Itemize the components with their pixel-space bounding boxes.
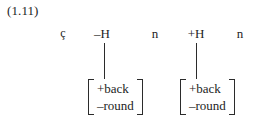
feature-list-right: +back –round xyxy=(186,79,229,115)
segment-tier: ç –H n +H n xyxy=(0,25,260,43)
right-bracket-icon xyxy=(229,79,235,115)
segment-minus-h: –H xyxy=(94,25,110,42)
association-line-right xyxy=(196,43,197,79)
segment-n-first: n xyxy=(152,25,159,42)
feature-round-left: –round xyxy=(97,97,134,114)
feature-round-right: –round xyxy=(189,97,226,114)
example-number-label: (1.11) xyxy=(7,3,39,18)
right-bracket-icon xyxy=(137,79,143,115)
segment-plus-h: +H xyxy=(188,25,205,42)
segment-n-second: n xyxy=(237,25,244,42)
feature-back-left: +back xyxy=(97,80,134,97)
feature-back-right: +back xyxy=(189,80,226,97)
association-line-left xyxy=(104,43,105,79)
feature-matrix-right: +back –round xyxy=(180,79,235,115)
feature-matrix-left: +back –round xyxy=(88,79,143,115)
feature-list-left: +back –round xyxy=(94,79,137,115)
segment-c-cedilla: ç xyxy=(60,25,65,42)
